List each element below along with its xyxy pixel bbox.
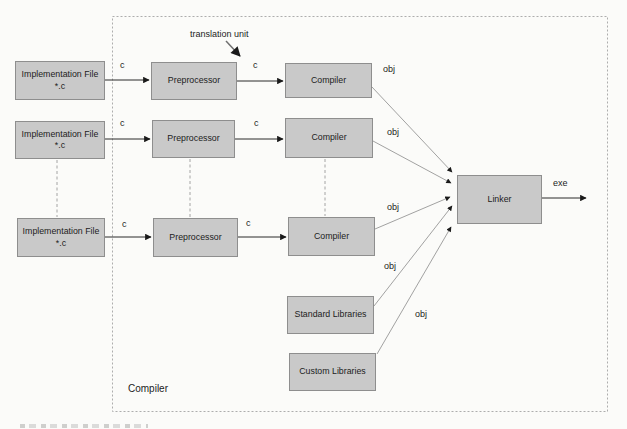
line-custlib-to-linker [377, 227, 451, 354]
compiler-1-box: Compiler [285, 63, 372, 98]
preprocessor-2-box: Preprocessor [152, 120, 235, 158]
preprocessor-1-box: Preprocessor [151, 62, 237, 100]
implementation-file-1-box: Implementation File *.c [15, 61, 105, 100]
implementation-file-1-subtitle: *.c [55, 81, 65, 92]
compiler-1-title: Compiler [311, 75, 346, 86]
implementation-file-3-title: Implementation File [23, 226, 100, 237]
custom-libraries-box: Custom Libraries [289, 353, 376, 391]
compilation-pipeline-diagram: Implementation File *.c Implementation F… [0, 0, 627, 429]
preprocessor-1-title: Preprocessor [168, 75, 220, 86]
implementation-file-1-title: Implementation File [22, 69, 99, 80]
edge-label-obj-custlib: obj [415, 309, 427, 319]
standard-libraries-box: Standard Libraries [287, 296, 374, 334]
compiler-2-box: Compiler [285, 118, 373, 158]
compiler-3-box: Compiler [288, 217, 375, 256]
edge-label-c-row3-pre: c [246, 218, 251, 228]
implementation-file-2-box: Implementation File *.c [15, 121, 105, 159]
edge-label-exe: exe [553, 178, 568, 188]
implementation-file-2-subtitle: *.c [55, 140, 65, 151]
edge-label-obj-stdlib: obj [384, 261, 396, 271]
edge-label-c-row1-tu: c [253, 60, 258, 70]
implementation-file-2-title: Implementation File [22, 129, 99, 140]
compiler-2-title: Compiler [311, 132, 346, 143]
implementation-file-3-subtitle: *.c [56, 238, 66, 249]
preprocessor-3-box: Preprocessor [153, 218, 238, 257]
line-comp1-to-linker [372, 87, 452, 172]
linker-box: Linker [457, 175, 542, 224]
edge-label-obj-compiler1: obj [383, 64, 395, 74]
preprocessor-3-title: Preprocessor [169, 232, 221, 243]
custom-libraries-title: Custom Libraries [299, 366, 366, 377]
translation-unit-pointer-arrow [226, 41, 240, 56]
line-comp2-to-linker [373, 141, 451, 183]
linker-title: Linker [488, 194, 512, 205]
edge-label-c-row3-src: c [122, 219, 127, 229]
standard-libraries-title: Standard Libraries [295, 309, 367, 320]
implementation-file-3-box: Implementation File *.c [17, 218, 105, 257]
line-stdlib-to-linker [374, 206, 452, 306]
translation-unit-label: translation unit [190, 29, 249, 39]
edge-label-c-row2-src: c [120, 118, 125, 128]
preprocessor-2-title: Preprocessor [167, 133, 219, 144]
compiler-group-label: Compiler [128, 383, 168, 394]
edge-label-obj-compiler3: obj [387, 202, 399, 212]
compiler-3-title: Compiler [314, 231, 349, 242]
edge-label-obj-compiler2: obj [387, 127, 399, 137]
edge-label-c-row1-src: c [120, 60, 125, 70]
cropped-caption-fragment [20, 424, 148, 428]
edge-label-c-row2-pre: c [254, 118, 259, 128]
